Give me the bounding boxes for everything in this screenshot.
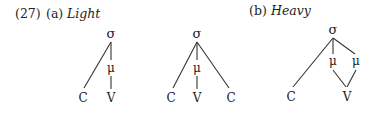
branch-line [333,38,355,54]
mora-node: μ [193,61,201,75]
tree-light-cvc: σ μ C V C [166,26,235,105]
mora-node: μ [352,54,360,68]
branch-line [347,70,356,87]
sigma-node: σ [329,22,338,37]
consonant-node: C [226,91,235,105]
mora-node: μ [107,61,115,75]
vowel-node: V [192,91,202,105]
branch-line [293,38,333,87]
vowel-node: V [342,90,352,104]
consonant-node: C [286,90,295,104]
tree-heavy: σ μ μ C V [286,22,360,104]
consonant-node: C [78,91,87,105]
branch-line [333,70,346,87]
sigma-node: σ [107,26,116,41]
syllable-diagrams: σ μ C V σ μ C V C σ μ μ C V [0,0,372,113]
sigma-node: σ [193,26,202,41]
branch-line [197,42,229,88]
tree-light-cv: σ μ C V [78,26,115,105]
mora-node: μ [329,54,337,68]
vowel-node: V [106,91,116,105]
consonant-node: C [166,91,175,105]
